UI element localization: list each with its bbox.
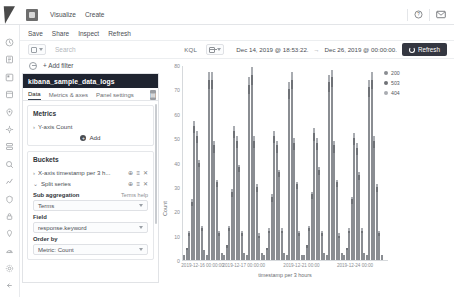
tab-data[interactable]: Data (28, 91, 41, 100)
breadcrumb-create[interactable]: Create (85, 11, 105, 18)
legend-label-200: 200 (391, 70, 400, 76)
bar-segment-503 (333, 145, 335, 152)
field-group: Field response.keyword (33, 214, 148, 233)
bar-segment-503 (196, 136, 198, 143)
collapse-nav-icon[interactable] (4, 280, 15, 291)
index-pattern-header: kibana_sample_data_logs (23, 74, 158, 88)
help-icon[interactable]: ? (412, 8, 425, 21)
infrastructure-icon[interactable] (4, 141, 15, 152)
legend-item-503[interactable]: 503 (384, 80, 400, 86)
visualize-app-icon[interactable] (26, 9, 38, 21)
metric-agg-row[interactable]: › Y-axis Count (33, 121, 148, 132)
recently-viewed-icon[interactable] (4, 37, 15, 48)
panel-scrollbar[interactable] (155, 104, 157, 224)
legend-item-200[interactable]: 200 (384, 70, 400, 76)
y-tick-70: 70 (174, 87, 180, 93)
bar-segment-404 (331, 70, 333, 77)
bar-segment-503 (276, 145, 278, 152)
field-select[interactable]: response.keyword (33, 222, 148, 233)
discover-icon[interactable] (4, 54, 15, 65)
dev-tools-icon[interactable] (4, 228, 15, 239)
save-button[interactable]: Save (28, 30, 43, 37)
legend-item-404[interactable]: 404 (384, 90, 400, 96)
end-date[interactable]: Dec 26, 2019 @ 00:00:00. (325, 46, 397, 53)
order-by-value: Metric: Count (38, 247, 74, 253)
legend-swatch-404 (384, 91, 388, 95)
x-tick-3: 2019-12-24 00:00 (337, 263, 373, 268)
y-tick-0: 0 (177, 258, 180, 264)
maps-icon[interactable] (4, 107, 15, 118)
kibana-logo-icon[interactable] (0, 5, 20, 25)
document-icon[interactable]: ▤ (150, 90, 156, 100)
editor-tabs: Data Metrics & axes Panel settings ▤ ✕ (23, 88, 158, 101)
date-quick-select[interactable] (206, 44, 224, 55)
global-header: Visualize Create ? (0, 5, 454, 25)
add-filter-button[interactable]: + Add filter (43, 62, 73, 69)
refresh-icon (409, 47, 415, 53)
monitoring-icon[interactable] (4, 246, 15, 257)
plot-area (182, 66, 388, 261)
legend-label-404: 404 (391, 90, 400, 96)
buckets-card: Buckets › X-axis timestamp per 3 h... ⊕ … (27, 151, 154, 260)
buckets-title: Buckets (33, 156, 148, 163)
mail-icon[interactable] (434, 8, 447, 21)
refresh-query-button[interactable]: Refresh (402, 43, 447, 56)
tab-panel-settings[interactable]: Panel settings (96, 92, 134, 100)
metrics-title: Metrics (33, 110, 148, 117)
refresh-button[interactable]: Refresh (108, 30, 131, 37)
refresh-label: Refresh (418, 46, 440, 53)
x-tick-2: 2019-12-21 00:00 (283, 263, 319, 268)
start-date[interactable]: Dec 14, 2019 @ 18:53:22. (236, 46, 308, 53)
visualize-action-bar: Save Share Inspect Refresh (20, 26, 454, 41)
visualization-editor-panel: kibana_sample_data_logs Data Metrics & a… (22, 73, 159, 283)
bar-series-container (183, 66, 388, 260)
field-label: Field (33, 214, 47, 220)
query-language-button[interactable]: KQL (184, 46, 197, 53)
breadcrumb-visualize[interactable]: Visualize (50, 11, 76, 18)
share-button[interactable]: Share (52, 30, 69, 37)
remove-icon[interactable]: ✕ (143, 169, 148, 176)
machine-learning-icon[interactable] (4, 124, 15, 135)
siem-icon[interactable] (4, 211, 15, 222)
y-tick-20: 20 (174, 209, 180, 215)
remove-icon-2[interactable]: ✕ (143, 180, 148, 187)
drag-icon-2[interactable]: ≡ (136, 181, 140, 187)
bar-segment-404 (291, 72, 293, 79)
terms-help-link[interactable]: Terms help (121, 192, 148, 198)
dataview-selector[interactable] (28, 44, 46, 55)
bar-segment-503 (373, 141, 375, 148)
apm-icon[interactable] (4, 176, 15, 187)
management-icon[interactable] (4, 263, 15, 274)
y-axis-ticks: 01020304050607080 (168, 66, 180, 261)
dashboard-icon[interactable] (4, 72, 15, 83)
bucket-xaxis-row[interactable]: › X-axis timestamp per 3 h... ⊕ ≡ ✕ (33, 167, 148, 178)
chart-legend: 200503404 (384, 70, 400, 96)
bucket-split-controls: ⊕ ≡ ✕ (128, 180, 148, 187)
dataview-icon (31, 47, 37, 53)
field-head: Field (33, 214, 148, 220)
inspect-button[interactable]: Inspect (78, 30, 99, 37)
bar-segment-503 (293, 143, 295, 150)
filter-icon[interactable] (29, 62, 37, 70)
sub-aggregation-value: Terms (38, 203, 54, 209)
gear-icon[interactable]: ⊕ (128, 169, 133, 176)
table-row[interactable] (381, 255, 384, 260)
gear-icon-2[interactable]: ⊕ (128, 180, 133, 187)
chevron-right-icon: › (33, 124, 35, 130)
canvas-icon[interactable] (4, 89, 15, 100)
legend-swatch-503 (384, 81, 388, 85)
y-tick-10: 10 (174, 234, 180, 240)
sub-aggregation-label: Sub aggregation (33, 192, 79, 198)
logs-icon[interactable] (4, 159, 15, 170)
tab-metrics-axes[interactable]: Metrics & axes (49, 92, 88, 100)
x-axis-label: timestamp per 3 hours (182, 272, 388, 278)
sub-aggregation-select[interactable]: Terms (33, 200, 148, 211)
search-input[interactable]: Search (55, 46, 76, 53)
order-by-select[interactable]: Metric: Count (33, 244, 148, 255)
add-metric-button[interactable]: + Add (33, 132, 148, 141)
x-axis-ticks: 2019-12-16 00:00:002019-12-17 00:00:0020… (182, 263, 388, 271)
breadcrumb: Visualize Create (50, 11, 104, 18)
bucket-split-series-row[interactable]: ⌄ Split series ⊕ ≡ ✕ (33, 178, 148, 189)
drag-icon[interactable]: ≡ (136, 170, 140, 176)
uptime-icon[interactable] (4, 194, 15, 205)
